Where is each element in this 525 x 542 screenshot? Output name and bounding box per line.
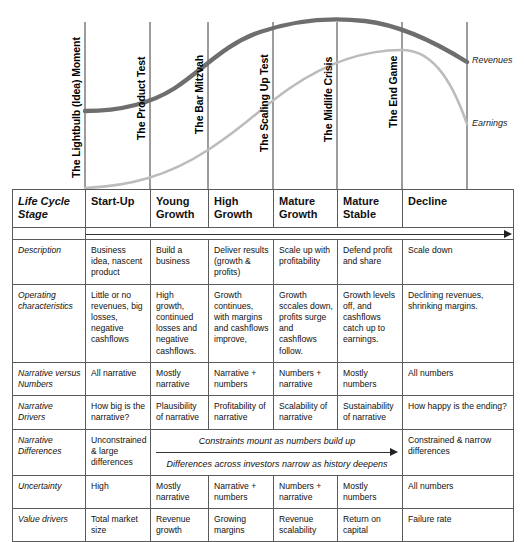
table-row-operating-characteristics: Operating characteristics Little or no r… bbox=[13, 284, 514, 362]
cell-differences-merged: Constraints mount as numbers build up Di… bbox=[151, 429, 403, 475]
earnings-series-label: Earnings bbox=[472, 118, 508, 128]
cell-narrative-numbers-young-growth: Mostly narrative bbox=[151, 362, 209, 395]
row-header-description: Description bbox=[13, 240, 86, 285]
column-header-mature-growth: Mature Growth bbox=[274, 190, 338, 228]
cell-value-drivers-young-growth: Revenue growth bbox=[151, 509, 209, 542]
cell-narrative-numbers-mature-growth: Numbers + narrative bbox=[274, 362, 338, 395]
table-row-narrative-versus-numbers: Narrative versus Numbers All narrative M… bbox=[13, 362, 514, 395]
cell-drivers-young-growth: Plausibility of narrative bbox=[151, 396, 209, 429]
row-header-narrative-differences: Narrative Differences bbox=[13, 429, 86, 475]
merged-arrow-head-icon bbox=[390, 448, 398, 456]
cell-description-mature-growth: Scale up with profitability bbox=[274, 240, 338, 285]
cell-value-drivers-decline: Failure rate bbox=[403, 509, 514, 542]
row-header-uncertainty: Uncertainty bbox=[13, 475, 86, 508]
cell-drivers-start-up: How big is the narrative? bbox=[86, 396, 151, 429]
cell-narrative-numbers-high-growth: Narrative + numbers bbox=[209, 362, 274, 395]
revenues-series-label: Revenues bbox=[472, 55, 513, 65]
cell-operating-mature-growth: Growth sccales down, profits surge and c… bbox=[274, 284, 338, 362]
cell-uncertainty-high-growth: Narrative + numbers bbox=[209, 475, 274, 508]
cell-operating-mature-stable: Growth levels off, and cashflows catch u… bbox=[338, 284, 403, 362]
row-header-narrative-versus-numbers: Narrative versus Numbers bbox=[13, 362, 86, 395]
table-row-description: Description Business idea, nascent produ… bbox=[13, 240, 514, 285]
cell-uncertainty-mature-stable: Mostly numbers bbox=[338, 475, 403, 508]
cell-drivers-mature-stable: Sustainability of narrative bbox=[338, 396, 403, 429]
merged-text-bottom: Differences across investors narrow as h… bbox=[156, 458, 398, 470]
cell-drivers-mature-growth: Scalability of narrative bbox=[274, 396, 338, 429]
column-header-start-up: Start-Up bbox=[86, 190, 151, 228]
row-header-narrative-drivers: Narrative Drivers bbox=[13, 396, 86, 429]
lifecycle-chart: The Lightbulb (Idea) Moment The Product … bbox=[0, 0, 525, 186]
cell-drivers-high-growth: Profitability of narrative bbox=[209, 396, 274, 429]
column-header-decline: Decline bbox=[403, 190, 514, 228]
cell-description-mature-stable: Defend profit and share bbox=[338, 240, 403, 285]
cell-narrative-numbers-decline: All numbers bbox=[403, 362, 514, 395]
table-row-narrative-drivers: Narrative Drivers How big is the narrati… bbox=[13, 396, 514, 429]
lifecycle-stage-table: Life Cycle Stage Start-Up Young Growth H… bbox=[12, 189, 514, 542]
cell-uncertainty-start-up: High bbox=[86, 475, 151, 508]
row-header-value-drivers: Value drivers bbox=[13, 509, 86, 542]
column-header-young-growth: Young Growth bbox=[151, 190, 209, 228]
cell-differences-start-up: Unconstrained & large differences bbox=[86, 429, 151, 475]
cell-value-drivers-high-growth: Growing margins bbox=[209, 509, 274, 542]
cell-value-drivers-start-up: Total market size bbox=[86, 509, 151, 542]
table-header-row: Life Cycle Stage Start-Up Young Growth H… bbox=[13, 190, 514, 228]
cell-description-decline: Scale down bbox=[403, 240, 514, 285]
merged-text-top: Constraints mount as numbers build up bbox=[156, 435, 398, 447]
cell-operating-young-growth: High growth, continued losses and negati… bbox=[151, 284, 209, 362]
merged-arrow bbox=[156, 448, 398, 457]
table-row-narrative-differences: Narrative Differences Unconstrained & la… bbox=[13, 429, 514, 475]
cell-description-high-growth: Deliver results (growth & profits) bbox=[209, 240, 274, 285]
arrow-line bbox=[86, 234, 504, 235]
cell-differences-decline: Constrained & narrow differences bbox=[403, 429, 514, 475]
column-header-life-cycle-stage: Life Cycle Stage bbox=[13, 190, 86, 228]
arrow-row-spacer bbox=[13, 228, 86, 240]
cell-operating-start-up: Little or no revenues, big losses, negat… bbox=[86, 284, 151, 362]
cell-drivers-decline: How happy is the ending? bbox=[403, 396, 514, 429]
row-header-operating-characteristics: Operating characteristics bbox=[13, 284, 86, 362]
arrow-head-icon bbox=[504, 230, 512, 238]
table-row-value-drivers: Value drivers Total market size Revenue … bbox=[13, 509, 514, 542]
cell-narrative-numbers-mature-stable: Mostly numbers bbox=[338, 362, 403, 395]
column-header-mature-stable: Mature Stable bbox=[338, 190, 403, 228]
stage-progression-arrow bbox=[86, 228, 514, 240]
cell-operating-high-growth: Growth continues, with margins and cashf… bbox=[209, 284, 274, 362]
merged-arrow-line bbox=[156, 452, 390, 453]
cell-description-start-up: Business idea, nascent product bbox=[86, 240, 151, 285]
cell-description-young-growth: Build a business bbox=[151, 240, 209, 285]
stage-progression-arrow-row bbox=[13, 228, 514, 240]
cell-uncertainty-mature-growth: Numbers + narrative bbox=[274, 475, 338, 508]
column-header-high-growth: High Growth bbox=[209, 190, 274, 228]
table-row-uncertainty: Uncertainty High Mostly narrative Narrat… bbox=[13, 475, 514, 508]
cell-operating-decline: Declining revenues, shrinking margins. bbox=[403, 284, 514, 362]
cell-uncertainty-decline: All numbers bbox=[403, 475, 514, 508]
cell-narrative-numbers-start-up: All narrative bbox=[86, 362, 151, 395]
cell-value-drivers-mature-growth: Revenue scalability bbox=[274, 509, 338, 542]
cell-uncertainty-young-growth: Mostly narrative bbox=[151, 475, 209, 508]
cell-value-drivers-mature-stable: Return on capital bbox=[338, 509, 403, 542]
